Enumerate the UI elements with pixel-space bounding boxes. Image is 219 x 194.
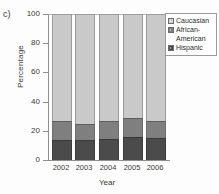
chart-figure: c) Percentage 020406080100 2002200320042… — [0, 0, 219, 194]
legend: CaucasianAfrican- AmericanHispanic — [165, 13, 217, 56]
stacked-bar[interactable] — [99, 14, 119, 160]
y-tick-label: 80 — [14, 38, 40, 47]
bar-segment[interactable] — [123, 14, 143, 118]
legend-label: Hispanic — [176, 43, 203, 52]
panel-label: c) — [3, 9, 11, 19]
y-tick-label: 20 — [14, 126, 40, 135]
legend-swatch-icon — [168, 27, 174, 33]
stacked-bar[interactable] — [52, 14, 72, 160]
plot-area — [48, 14, 166, 160]
stacked-bar[interactable] — [75, 14, 95, 160]
stacked-bar[interactable] — [146, 14, 166, 160]
bar-segment[interactable] — [146, 121, 166, 139]
bar-segment[interactable] — [52, 14, 72, 121]
legend-swatch-icon — [168, 18, 174, 24]
bar-segment[interactable] — [52, 140, 72, 160]
legend-label: African- American — [176, 25, 206, 43]
stacked-bar[interactable] — [123, 14, 143, 160]
x-tick-label: 2006 — [140, 163, 170, 172]
legend-label: Caucasian — [176, 16, 209, 25]
x-axis-line — [44, 160, 170, 161]
y-tick-label: 60 — [14, 67, 40, 76]
legend-swatch-icon — [168, 45, 174, 51]
legend-item[interactable]: Caucasian — [168, 16, 214, 25]
bar-segment[interactable] — [75, 124, 95, 140]
legend-item[interactable]: African- American — [168, 25, 214, 43]
bar-segment[interactable] — [75, 14, 95, 124]
bar-segment[interactable] — [52, 121, 72, 140]
y-tick-label: 40 — [14, 97, 40, 106]
bar-segment[interactable] — [75, 140, 95, 160]
bar-segment[interactable] — [99, 14, 119, 121]
bar-segment[interactable] — [99, 139, 119, 160]
bar-segment[interactable] — [99, 121, 119, 139]
legend-item[interactable]: Hispanic — [168, 43, 214, 52]
y-tick-label: 0 — [14, 155, 40, 164]
bar-segment[interactable] — [123, 118, 143, 137]
bar-segment[interactable] — [146, 138, 166, 160]
x-axis-title: Year — [48, 178, 166, 187]
bar-segment[interactable] — [146, 14, 166, 121]
y-tick-label: 100 — [14, 9, 40, 18]
bar-segment[interactable] — [123, 137, 143, 160]
